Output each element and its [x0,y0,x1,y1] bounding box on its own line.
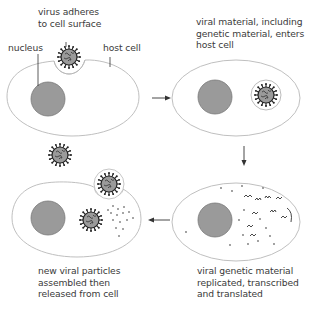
label-line: viral genetic material [197,265,299,277]
label-host-cell: host cell [103,42,141,54]
label-line: and translated [197,288,299,300]
virus-internalised-icon [254,83,278,107]
label-line: host cell [196,39,304,51]
label-line: replicated, transcribed [197,277,299,289]
label-line: to cell surface [38,18,101,30]
label-nucleus: nucleus [8,42,43,54]
label-released: new viral particles assembled then relea… [38,265,120,300]
stage-4-cell [12,143,141,257]
stage-1-cell [7,42,139,136]
label-line: virus adheres [38,6,101,18]
nucleus [31,82,65,116]
label-virus-adheres: virus adheres to cell surface [38,6,101,29]
arrow-stage2-to-3 [242,146,247,166]
arrow-stage3-to-4 [148,218,170,223]
stage-2-cell [172,60,300,136]
label-line: genetic material, enters [196,28,304,40]
label-line: new viral particles [38,265,120,277]
virus-released-icon [48,143,72,167]
virus-budding-icon [97,172,121,196]
nucleus [31,201,65,235]
label-enters: viral material, including genetic materi… [196,16,304,51]
label-line: assembled then [38,277,120,289]
nucleus [198,80,232,114]
arrow-stage1-to-2 [152,96,171,101]
label-line: viral material, including [196,16,304,28]
virus-assembled-icon [79,208,103,232]
label-replicated: viral genetic material replicated, trans… [197,265,299,300]
stage-3-cell [172,183,300,261]
nucleus [198,203,232,237]
virus-adhering-icon [57,45,81,69]
label-line: released from cell [38,288,120,300]
